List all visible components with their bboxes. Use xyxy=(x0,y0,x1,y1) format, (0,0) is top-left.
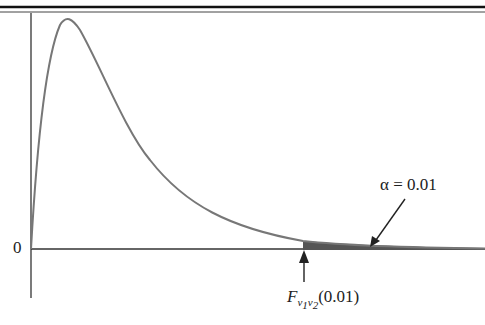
f-density-curve xyxy=(31,19,485,249)
crit-arrow-head xyxy=(299,250,309,263)
crit-F: F xyxy=(287,287,297,306)
chart-canvas xyxy=(0,0,485,325)
y-zero-label: 0 xyxy=(13,238,22,258)
alpha-arrow-line xyxy=(376,199,405,240)
alpha-label: α = 0.01 xyxy=(380,175,437,195)
alpha-text: α = 0.01 xyxy=(380,175,437,194)
crit-arg: (0.01) xyxy=(318,287,359,306)
critical-value-label: Fν1ν2(0.01) xyxy=(287,287,359,312)
